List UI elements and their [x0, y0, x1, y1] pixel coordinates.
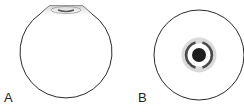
figure-canvas — [0, 0, 244, 108]
globe-side-outline — [20, 6, 112, 98]
panel-label-a: A — [4, 91, 13, 104]
center-dot — [192, 48, 206, 62]
panel-b-globe — [154, 10, 244, 100]
panel-label-b: B — [138, 91, 147, 104]
panel-a-globe — [20, 6, 112, 98]
